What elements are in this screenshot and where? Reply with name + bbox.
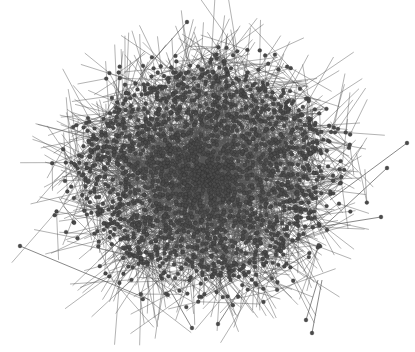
graph-node [131,265,135,269]
graph-node [200,219,204,223]
graph-node [80,173,84,177]
graph-node [301,105,305,109]
graph-node [188,221,192,225]
graph-node [137,131,141,135]
graph-node [310,331,314,335]
graph-node [112,233,116,237]
graph-edge [143,263,157,326]
graph-node [263,143,267,147]
graph-node [265,213,269,217]
graph-node [260,185,264,189]
graph-node [182,173,186,177]
graph-node [192,177,196,181]
graph-node [307,211,311,215]
graph-node [87,140,91,144]
graph-node [273,245,277,249]
graph-node [63,179,67,183]
graph-node [171,162,175,166]
graph-node [259,214,263,218]
graph-node [237,78,241,82]
graph-node [242,215,246,219]
graph-node [275,288,279,292]
graph-node [219,271,223,275]
graph-node [256,231,260,235]
graph-node [261,257,265,261]
graph-node [124,135,128,139]
graph-node [282,124,286,128]
graph-node [94,195,98,199]
graph-node [242,271,246,275]
graph-node [227,201,231,205]
graph-node [227,132,231,136]
graph-node [231,215,235,219]
graph-node [85,196,89,200]
graph-node [217,175,221,179]
graph-node [245,84,249,88]
graph-node [216,191,220,195]
graph-node [231,53,235,57]
graph-node [235,153,239,157]
graph-node [318,149,322,153]
graph-node [145,263,149,267]
graph-node [50,161,54,165]
graph-node [90,137,94,141]
graph-node [319,169,323,173]
graph-node [254,281,258,285]
graph-node [262,164,266,168]
graph-node [164,165,168,169]
graph-node [111,126,115,130]
graph-node [206,168,210,172]
graph-node [221,254,225,258]
graph-node [123,229,127,233]
graph-node [274,121,278,125]
graph-node [106,224,110,228]
graph-node [207,144,211,148]
graph-node [248,259,252,263]
graph-node [176,133,180,137]
graph-node [231,303,235,307]
graph-node [102,222,106,226]
graph-node [162,151,166,155]
graph-node [134,152,138,156]
graph-node [219,228,223,232]
graph-node [135,213,139,217]
graph-node [174,173,178,177]
graph-node [319,191,323,195]
graph-node [274,253,278,257]
graph-node [264,104,268,108]
graph-node [295,145,299,149]
graph-node [184,204,188,208]
graph-node [155,160,159,164]
graph-node [152,126,156,130]
graph-node [195,166,199,170]
graph-node [133,191,137,195]
graph-node [304,208,308,212]
graph-node [164,179,168,183]
graph-node [267,174,271,178]
graph-node [168,195,172,199]
graph-node [115,100,119,104]
graph-node [200,166,204,170]
graph-node [220,180,224,184]
graph-node [197,295,201,299]
graph-node [186,184,190,188]
graph-node [102,228,106,232]
graph-node [172,263,176,267]
graph-node [241,150,245,154]
graph-node [236,214,240,218]
graph-node [177,83,181,87]
graph-node [278,162,282,166]
graph-node [124,97,128,101]
graph-node [267,108,271,112]
graph-node [174,200,178,204]
graph-node [125,177,129,181]
graph-node [235,49,239,53]
graph-node [272,111,276,115]
graph-node [194,142,198,146]
graph-node [93,232,97,236]
graph-node [243,92,247,96]
graph-node [303,131,307,135]
graph-node [169,128,173,132]
graph-node [93,163,97,167]
graph-node [325,107,329,111]
